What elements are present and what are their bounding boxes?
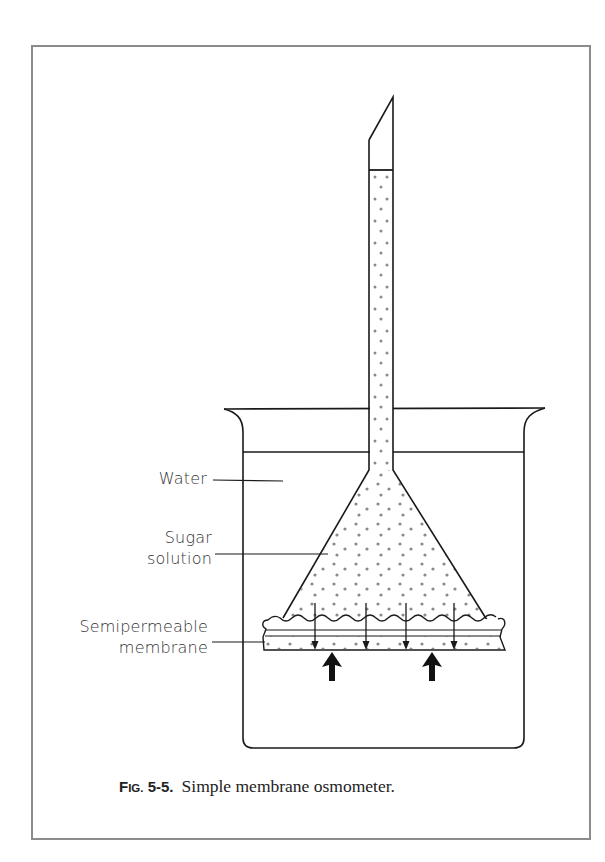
sugar-solution-label-line2: solution: [147, 548, 212, 569]
figure-title: Simple membrane osmometer.: [182, 776, 395, 796]
sugar-solution-label-line1: Sugar: [147, 527, 212, 548]
up-arrow-icon: [322, 652, 342, 681]
figure-number: FIG. 5-5.: [119, 778, 174, 795]
thick-up-arrows: [322, 652, 442, 681]
up-arrow-icon: [422, 652, 442, 681]
membrane-label: Semipermeable membrane: [79, 616, 208, 658]
membrane-label-line2: membrane: [79, 637, 208, 658]
semipermeable-membrane: [263, 615, 505, 650]
water-label: Water: [159, 468, 207, 489]
sugar-solution: [283, 172, 487, 620]
osmometer-diagram: [0, 0, 605, 862]
membrane-label-line1: Semipermeable: [79, 616, 208, 637]
sugar-solution-label: Sugar solution: [147, 527, 212, 569]
figure-caption: FIG. 5-5.Simple membrane osmometer.: [119, 776, 395, 797]
